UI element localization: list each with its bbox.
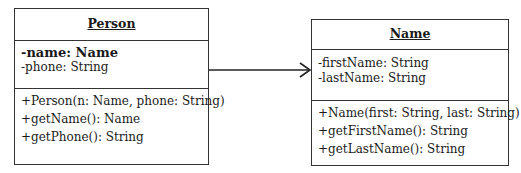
operation-constructor: +Name(first: String, last: String) xyxy=(318,104,508,122)
attribute-phone: -phone: String xyxy=(21,60,208,75)
operation-get-phone: +getPhone(): String xyxy=(21,128,208,146)
attribute-last-name: -lastName: String xyxy=(318,71,508,86)
operation-get-first-name: +getFirstName(): String xyxy=(318,122,508,140)
class-name-title: Name xyxy=(312,20,508,50)
class-person-operations: +Person(n: Name, phone: String) +getName… xyxy=(15,89,208,146)
attribute-name: -name: Name xyxy=(21,45,208,60)
class-person: Person -name: Name -phone: String +Perso… xyxy=(14,8,209,165)
class-person-title: Person xyxy=(15,9,208,41)
class-name: Name -firstName: String -lastName: Strin… xyxy=(311,19,509,166)
class-person-attributes: -name: Name -phone: String xyxy=(15,41,208,89)
class-name-operations: +Name(first: String, last: String) +getF… xyxy=(312,101,508,158)
operation-get-name: +getName(): Name xyxy=(21,110,208,128)
attribute-first-name: -firstName: String xyxy=(318,56,508,71)
operation-constructor: +Person(n: Name, phone: String) xyxy=(21,92,208,110)
operation-get-last-name: +getLastName(): String xyxy=(318,140,508,158)
class-name-attributes: -firstName: String -lastName: String xyxy=(312,50,508,101)
